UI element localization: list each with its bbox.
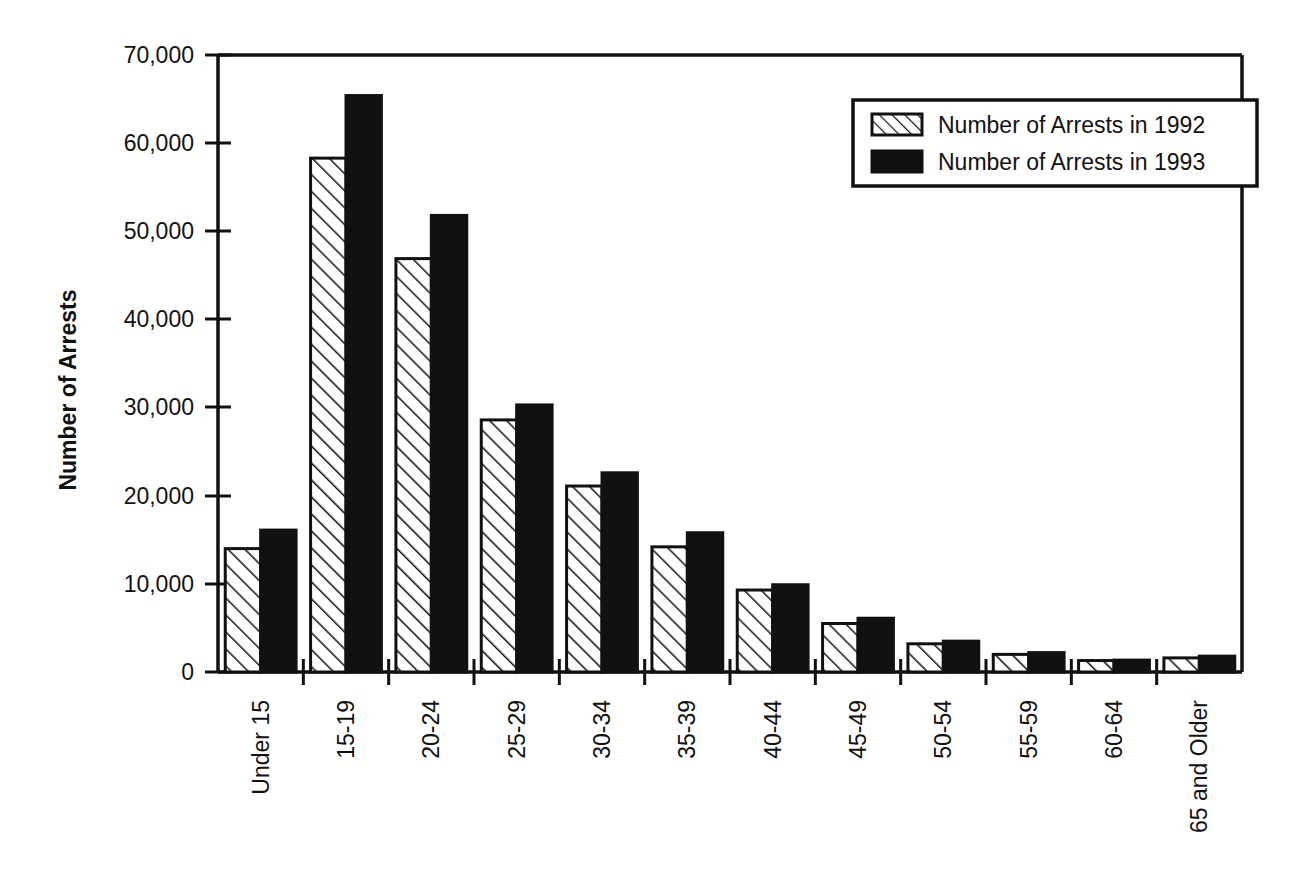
bar-1992[interactable] [1164,658,1199,672]
x-category-label: 45-49 [845,700,871,759]
legend-item-1992[interactable]: Number of Arrests in 1992 [872,112,1205,138]
bar-group [311,96,382,672]
bar-group [823,618,894,672]
bar-1993[interactable] [1199,656,1234,672]
solid-swatch [872,151,922,172]
bar-1993[interactable] [858,618,893,672]
bar-1992[interactable] [652,547,687,672]
y-tick-label: 70,000 [124,42,194,68]
bar-group [225,530,296,672]
chart-canvas: 70,000 60,000 50,000 40,000 30,000 20,00… [0,0,1304,877]
bar-1993[interactable] [1114,660,1149,672]
bar-group [652,533,723,672]
bar-1992[interactable] [567,486,602,672]
y-tick-label: 10,000 [124,571,194,597]
bar-1993[interactable] [431,215,466,672]
x-category-label: 60-64 [1101,700,1127,759]
bar-1993[interactable] [517,405,552,672]
bar-1992[interactable] [993,654,1028,672]
x-category-label: 40-44 [760,700,786,759]
bar-1993[interactable] [773,585,808,672]
bar-1992[interactable] [225,549,260,672]
x-category-label: 30-34 [589,700,615,759]
y-tick-label: 0 [181,659,194,685]
bar-group [481,405,552,672]
chart-legend: Number of Arrests in 1992 Number of Arre… [853,100,1257,186]
bar-1993[interactable] [602,473,637,672]
bar-1992[interactable] [908,644,943,672]
y-tick-label: 60,000 [124,130,194,156]
bar-chart-figure: 70,000 60,000 50,000 40,000 30,000 20,00… [0,0,1304,877]
bar-1992[interactable] [737,590,772,672]
x-category-label: 50-54 [930,700,956,759]
x-category-label: 20-24 [418,700,444,759]
bar-group [567,473,638,672]
legend-label-1993: Number of Arrests in 1993 [938,149,1205,175]
x-category-label: 65 and Older [1186,700,1212,833]
bar-1992[interactable] [823,624,858,672]
bar-1993[interactable] [261,530,296,672]
bar-group [737,585,808,672]
y-tick-label: 50,000 [124,218,194,244]
bar-1992[interactable] [1079,661,1114,672]
bar-1993[interactable] [687,533,722,672]
bar-1992[interactable] [311,158,346,672]
y-tick-label: 30,000 [124,394,194,420]
y-tick-label: 40,000 [124,306,194,332]
bar-group [908,641,979,672]
bar-group [993,653,1064,672]
x-category-label: 15-19 [333,700,359,759]
bar-group [1164,656,1235,672]
bar-1993[interactable] [1029,653,1064,672]
hatched-swatch [872,114,922,135]
x-category-label: Under 15 [248,700,274,795]
legend-item-1993[interactable]: Number of Arrests in 1993 [872,149,1205,175]
bar-group [1079,660,1150,672]
legend-label-1992: Number of Arrests in 1992 [938,112,1205,138]
bar-1993[interactable] [943,641,978,672]
y-axis-title: Number of Arrests [55,289,81,490]
bar-1992[interactable] [396,259,431,672]
bar-group [396,215,467,672]
bar-1993[interactable] [346,96,381,672]
x-category-label: 25-29 [504,700,530,759]
x-category-label: 55-59 [1016,700,1042,759]
y-tick-label: 20,000 [124,483,194,509]
bar-1992[interactable] [481,420,516,672]
x-category-label: 35-39 [674,700,700,759]
